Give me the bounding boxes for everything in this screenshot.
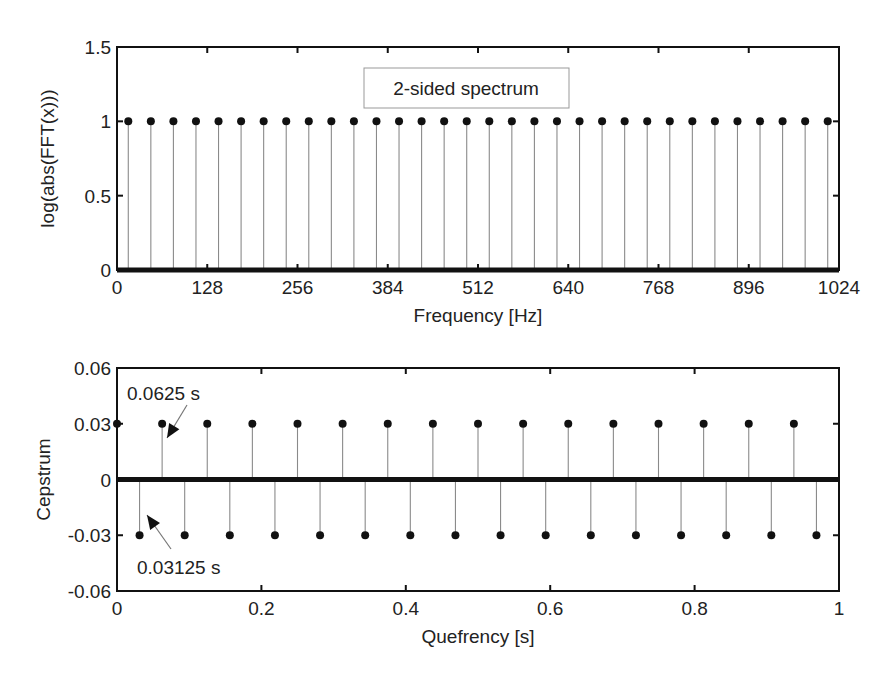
stem-marker	[700, 420, 708, 428]
stem-marker	[587, 531, 595, 539]
x-axis-label: Frequency [Hz]	[414, 305, 543, 326]
stem-marker	[824, 117, 832, 125]
x-tick-label: 0.2	[248, 598, 274, 619]
stem-marker	[372, 117, 380, 125]
stem-marker	[576, 117, 584, 125]
x-tick-label: 384	[372, 277, 404, 298]
stem-marker	[485, 117, 493, 125]
x-tick-label: 1	[834, 598, 845, 619]
legend: 2-sided spectrum	[364, 68, 569, 108]
stem-marker	[327, 117, 335, 125]
stem-marker	[237, 117, 245, 125]
stem-marker	[361, 531, 369, 539]
spectrum-plot: 0128256384512640768896102400.511.5Freque…	[37, 37, 861, 326]
stem-marker	[429, 420, 437, 428]
stem-marker	[147, 117, 155, 125]
stem-marker	[598, 117, 606, 125]
stem-marker	[316, 531, 324, 539]
x-tick-label: 768	[643, 277, 675, 298]
stem-marker	[260, 117, 268, 125]
cepstrum-plot: 00.20.40.60.81-0.06-0.0300.030.06Quefren…	[33, 358, 844, 647]
x-tick-label: 896	[733, 277, 765, 298]
x-tick-label: 0.6	[537, 598, 563, 619]
stem-marker	[271, 531, 279, 539]
x-axis-ticks: 00.20.40.60.81	[112, 368, 845, 619]
series-positive	[113, 420, 798, 480]
x-tick-label: 256	[282, 277, 314, 298]
stem-marker	[203, 420, 211, 428]
stem-marker	[733, 117, 741, 125]
stem-marker	[790, 420, 798, 428]
x-tick-label: 0.4	[393, 598, 420, 619]
legend-label: 2-sided spectrum	[393, 78, 539, 99]
annotation-label-positive: 0.0625 s	[127, 383, 200, 404]
x-tick-label: 0	[112, 277, 123, 298]
y-tick-label: 0.5	[85, 186, 111, 207]
y-tick-label: 1	[100, 111, 111, 132]
stem-marker	[169, 117, 177, 125]
stem-marker	[553, 117, 561, 125]
x-tick-label: 1024	[818, 277, 861, 298]
y-tick-label: 0.03	[74, 414, 111, 435]
y-tick-label: 1.5	[85, 37, 111, 58]
stem-marker	[181, 531, 189, 539]
stem-marker	[609, 420, 617, 428]
stem-marker	[801, 117, 809, 125]
x-axis-label: Quefrency [s]	[422, 626, 535, 647]
x-tick-label: 640	[552, 277, 584, 298]
stem-marker	[305, 117, 313, 125]
stem-marker	[248, 420, 256, 428]
stem-marker	[451, 531, 459, 539]
stem-marker	[474, 420, 482, 428]
stem-marker	[621, 117, 629, 125]
y-tick-label: -0.06	[68, 581, 111, 602]
stem-marker	[136, 531, 144, 539]
stem-marker	[395, 117, 403, 125]
stem-marker	[384, 420, 392, 428]
series-peaks	[124, 117, 831, 270]
figure-canvas: 0128256384512640768896102400.511.5Freque…	[0, 0, 894, 688]
stem-marker	[722, 531, 730, 539]
stem-marker	[643, 117, 651, 125]
x-tick-label: 0	[112, 598, 123, 619]
stem-marker	[350, 117, 358, 125]
x-tick-label: 512	[462, 277, 494, 298]
stem-marker	[158, 420, 166, 428]
stem-marker	[779, 117, 787, 125]
x-tick-label: 128	[191, 277, 223, 298]
stem-marker	[564, 420, 572, 428]
stem-marker	[812, 531, 820, 539]
stem-marker	[756, 117, 764, 125]
figure: 0128256384512640768896102400.511.5Freque…	[0, 0, 894, 688]
y-tick-label: 0	[100, 260, 111, 281]
stem-marker	[767, 531, 775, 539]
stem-marker	[463, 117, 471, 125]
stem-marker	[677, 531, 685, 539]
stem-marker	[632, 531, 640, 539]
annotation-label-negative: 0.03125 s	[137, 557, 220, 578]
stem-marker	[497, 531, 505, 539]
y-tick-label: -0.03	[68, 525, 111, 546]
y-axis-label: log(abs(FFT(x)))	[37, 89, 58, 227]
y-tick-label: 0	[100, 470, 111, 491]
stem-marker	[542, 531, 550, 539]
stem-marker	[192, 117, 200, 125]
stem-marker	[745, 420, 753, 428]
series-negative	[136, 480, 821, 540]
stem-marker	[519, 420, 527, 428]
stem-marker	[282, 117, 290, 125]
stem-marker	[406, 531, 414, 539]
stem-marker	[666, 117, 674, 125]
y-axis-label: Cepstrum	[33, 438, 54, 520]
stem-marker	[711, 117, 719, 125]
stem-marker	[688, 117, 696, 125]
stem-marker	[530, 117, 538, 125]
stem-marker	[655, 420, 663, 428]
stem-marker	[294, 420, 302, 428]
stem-marker	[440, 117, 448, 125]
stem-marker	[124, 117, 132, 125]
y-tick-label: 0.06	[74, 358, 111, 379]
stem-marker	[226, 531, 234, 539]
stem-marker	[418, 117, 426, 125]
x-tick-label: 0.8	[681, 598, 707, 619]
